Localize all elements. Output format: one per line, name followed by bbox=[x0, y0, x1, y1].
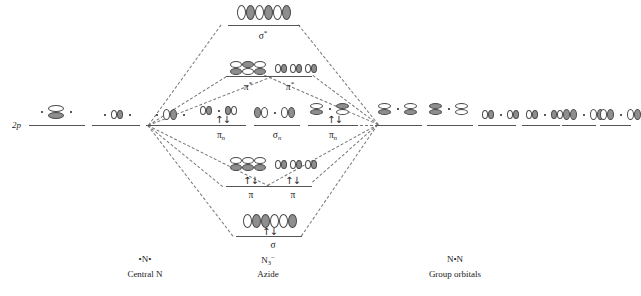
level-group-orbital-3 bbox=[478, 125, 516, 126]
orbital-pi-left bbox=[230, 157, 266, 171]
level-group-orbital-6 bbox=[600, 125, 631, 126]
orbital-pi-star-left bbox=[230, 61, 266, 75]
level-pi-star-left bbox=[226, 76, 270, 77]
mo-label-pi-left: π bbox=[236, 190, 266, 200]
orbital-pi-star-right bbox=[275, 64, 317, 73]
caption-right-atom: N•N bbox=[410, 254, 500, 264]
mo-label-pi-n-left: πn bbox=[206, 130, 236, 141]
level-pi-right bbox=[268, 186, 312, 187]
electrons-pi-left: ↑↓ bbox=[243, 175, 258, 186]
orbital-group-3 bbox=[482, 110, 519, 119]
mo-label-pi-star-right: π* bbox=[275, 80, 305, 92]
level-pi-left bbox=[226, 186, 270, 187]
orbital-group-1 bbox=[378, 103, 417, 115]
caption-right-name: Group orbitals bbox=[410, 269, 500, 279]
orbital-group-4 bbox=[526, 110, 563, 119]
connector-left-sigma bbox=[147, 125, 233, 237]
level-pi-n-left bbox=[196, 125, 246, 126]
mo-label-pi-right: π bbox=[278, 190, 308, 200]
orbital-sigma-n bbox=[254, 107, 295, 118]
mo-label-pi-n-right: πn bbox=[318, 130, 348, 141]
caption-left-name: Central N bbox=[100, 269, 190, 279]
electrons-sigma: ↑↓ bbox=[262, 226, 277, 237]
level-2p-2 bbox=[92, 125, 140, 126]
axis-label-2p: 2p bbox=[12, 120, 21, 130]
level-pi-n-right bbox=[308, 125, 358, 126]
orbital-2p-vertical bbox=[39, 105, 73, 119]
electrons-pi-n-right: ↑↓ bbox=[327, 114, 342, 125]
level-2p-3 bbox=[146, 125, 196, 126]
orbital-2p-horizontal bbox=[102, 110, 132, 119]
level-group-orbital-2 bbox=[427, 125, 473, 126]
mo-label-sigma-n: σn bbox=[262, 130, 292, 141]
caption-left-atom: •N• bbox=[100, 254, 190, 264]
electrons-pi-right: ↑↓ bbox=[285, 175, 300, 186]
level-pi-star-right bbox=[268, 76, 312, 77]
orbital-2p-inplane bbox=[154, 109, 186, 120]
level-group-orbital-1 bbox=[376, 125, 422, 126]
caption-center-atom: N3− bbox=[223, 254, 313, 266]
level-sigma-star bbox=[228, 25, 300, 26]
caption-center-name: Azide bbox=[223, 269, 313, 279]
orbital-group-5 bbox=[563, 109, 604, 120]
level-sigma-n bbox=[254, 125, 300, 126]
level-2p-1 bbox=[29, 125, 85, 126]
mo-label-sigma-star: σ* bbox=[248, 29, 278, 41]
level-group-orbital-4 bbox=[522, 125, 560, 126]
orbital-pi-right bbox=[275, 160, 317, 169]
orbital-sigma-star bbox=[237, 5, 291, 20]
level-group-orbital-5 bbox=[562, 125, 596, 126]
orbital-group-6 bbox=[600, 109, 641, 120]
electrons-pi-n-left: ↑↓ bbox=[215, 114, 230, 125]
orbital-group-2 bbox=[429, 103, 468, 115]
mo-label-sigma: σ bbox=[258, 240, 288, 250]
mo-label-pi-star-left: π* bbox=[233, 80, 263, 92]
